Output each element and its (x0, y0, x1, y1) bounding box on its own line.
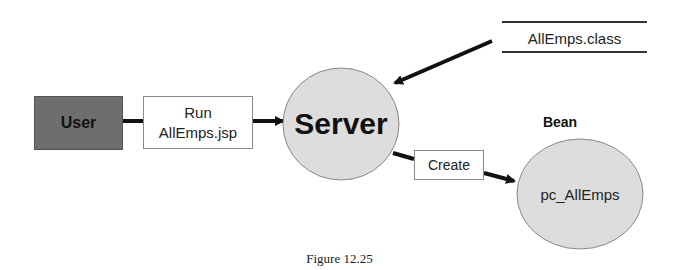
create-action-node: Create (414, 150, 484, 180)
class-file-label: AllEmps.class (502, 26, 647, 50)
user-node: User (34, 96, 123, 150)
edge-server-to-create (393, 153, 414, 159)
figure-caption: Figure 12.25 (0, 249, 679, 269)
run-label-line1: Run (184, 103, 212, 123)
bean-label: pc_AllEmps (517, 183, 643, 205)
edge-create-to-bean (484, 173, 514, 181)
run-request-node: Run AllEmps.jsp (143, 96, 253, 149)
run-label-line2: AllEmps.jsp (159, 123, 237, 143)
server-label: Server (283, 100, 399, 148)
create-label: Create (428, 157, 470, 173)
edge-class-to-server (395, 41, 492, 83)
bean-title: Bean (530, 112, 590, 132)
user-label: User (61, 114, 97, 132)
